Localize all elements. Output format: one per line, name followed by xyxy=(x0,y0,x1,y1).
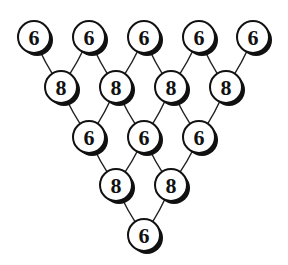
node-r0-c1: 6 xyxy=(73,21,108,56)
node-r4-c0: 6 xyxy=(128,219,163,254)
node-r2-c2: 6 xyxy=(183,121,218,156)
nodes: 666668888666886 xyxy=(18,21,272,254)
number-triangle-diagram: 666668888666886 xyxy=(0,0,288,265)
node-value: 8 xyxy=(111,75,122,100)
node-value: 8 xyxy=(166,173,177,198)
node-r3-c0: 8 xyxy=(100,169,135,204)
node-value: 8 xyxy=(221,75,232,100)
node-value: 6 xyxy=(194,25,205,50)
node-value: 6 xyxy=(84,125,95,150)
node-value: 6 xyxy=(139,125,150,150)
node-value: 6 xyxy=(139,25,150,50)
node-value: 8 xyxy=(111,173,122,198)
node-r0-c4: 6 xyxy=(237,21,272,56)
node-r3-c1: 8 xyxy=(155,169,190,204)
node-value: 6 xyxy=(84,25,95,50)
node-r2-c0: 6 xyxy=(73,121,108,156)
node-value: 6 xyxy=(194,125,205,150)
node-r1-c2: 8 xyxy=(155,71,190,106)
node-value: 8 xyxy=(56,75,67,100)
node-r1-c1: 8 xyxy=(100,71,135,106)
node-r0-c3: 6 xyxy=(183,21,218,56)
node-r1-c0: 8 xyxy=(45,71,80,106)
node-r2-c1: 6 xyxy=(128,121,163,156)
node-value: 6 xyxy=(248,25,259,50)
node-r1-c3: 8 xyxy=(210,71,245,106)
node-r0-c0: 6 xyxy=(18,21,53,56)
node-value: 6 xyxy=(139,223,150,248)
node-value: 8 xyxy=(166,75,177,100)
node-r0-c2: 6 xyxy=(128,21,163,56)
node-value: 6 xyxy=(29,25,40,50)
